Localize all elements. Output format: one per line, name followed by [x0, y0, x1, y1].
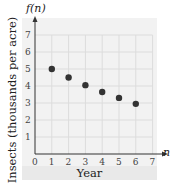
y-tick-label: 7: [25, 30, 31, 40]
chart-container: f(n) n Insects (thousands per acre) Year…: [0, 0, 182, 185]
x-tick-label: 7: [150, 157, 156, 167]
data-point: [116, 95, 122, 101]
x-axis-variable-label: n: [163, 146, 170, 159]
y-axis-title-text: Insects (thousands per acre): [5, 17, 19, 184]
data-point: [82, 82, 88, 88]
data-point: [49, 66, 55, 72]
y-tick-label: 5: [25, 64, 31, 74]
y-tick-label: 6: [25, 47, 31, 57]
data-point: [65, 74, 71, 80]
y-tick-label: 4: [25, 81, 31, 91]
y-axis-title: Insects (thousands per acre): [1, 45, 23, 155]
y-axis-arrow-icon: [33, 16, 38, 22]
y-axis-variable-label: f(n): [26, 2, 46, 15]
x-tick-label: 1: [49, 157, 55, 167]
y-tick-label: 1: [25, 132, 31, 142]
y-tick-label: 3: [25, 98, 31, 108]
data-point: [133, 101, 139, 107]
x-tick-label: 4: [99, 157, 105, 167]
x-tick-label: 3: [82, 157, 88, 167]
x-tick-label: 2: [66, 157, 72, 167]
x-tick-label: 0: [32, 157, 38, 167]
data-point: [99, 89, 105, 95]
x-tick-label: 6: [133, 157, 139, 167]
y-tick-label: 2: [25, 115, 31, 125]
x-tick-label: 5: [116, 157, 122, 167]
x-axis-title: Year: [22, 166, 157, 180]
